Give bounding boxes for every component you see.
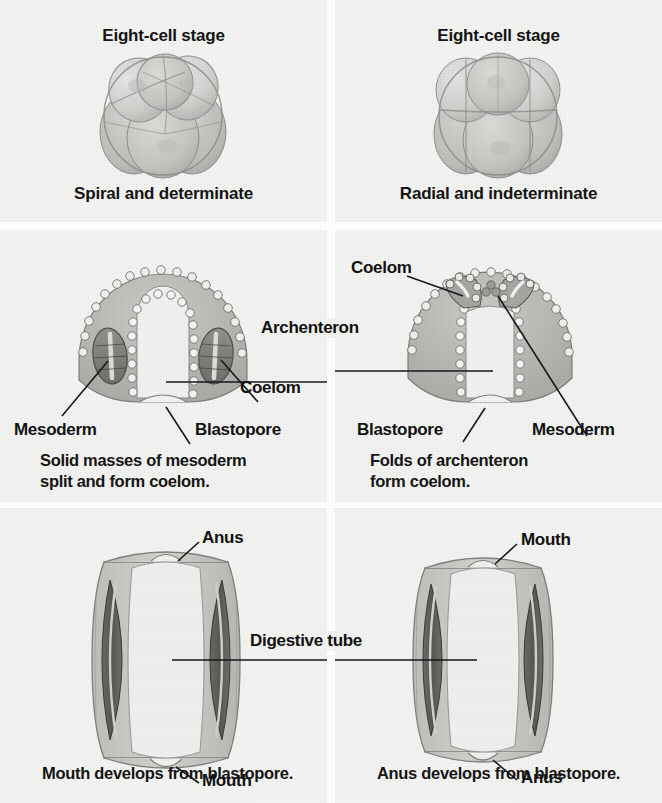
gutter-v-row1: [327, 0, 335, 222]
label-mesoderm-left: Mesoderm: [14, 420, 97, 440]
subtitle-spiral-determinate: Spiral and determinate: [0, 184, 327, 204]
label-mouth-right: Mouth: [521, 530, 570, 550]
caption-line-2: form coelom.: [370, 472, 470, 490]
protostome-worm: [0, 508, 327, 803]
panel-deuterostome-worm: Mouth Anus Anus develops from blastopore…: [335, 508, 662, 803]
caption-line-1: Solid masses of mesoderm: [40, 451, 246, 469]
panel-deuterostome-cleavage: Eight-cell stage Radial an: [335, 0, 662, 222]
label-digestive-tube-shared: Digestive tube: [245, 631, 367, 651]
panel-protostome-cleavage: Eight-cell stage: [0, 0, 327, 222]
label-blastopore-right: Blastopore: [357, 420, 443, 440]
label-coelom-right: Coelom: [351, 258, 412, 278]
label-coelom-left: Coelom: [240, 378, 301, 398]
gutter-v-row3: [327, 508, 335, 803]
panel-protostome-gastrula: Mesoderm Blastopore Coelom Solid masses …: [0, 230, 327, 502]
caption-protostome-coelom: Solid masses of mesoderm split and form …: [40, 450, 246, 492]
caption-deuterostome-coelom: Folds of archenteron form coelom.: [370, 450, 528, 492]
label-mesoderm-right: Mesoderm: [532, 420, 615, 440]
panel-deuterostome-gastrula: Coelom Blastopore Mesoderm Folds of arch…: [335, 230, 662, 502]
label-archenteron-shared: Archenteron: [256, 318, 364, 338]
caption-deuterostome-anus: Anus develops from blastopore.: [335, 763, 662, 784]
panel-protostome-worm: Anus Mouth Mouth develops from blastopor…: [0, 508, 327, 803]
label-anus-left: Anus: [202, 528, 243, 548]
gutter-h-1: [0, 222, 662, 230]
gutter-v-row2: [327, 230, 335, 502]
subtitle-radial-indeterminate: Radial and indeterminate: [335, 184, 662, 204]
caption-protostome-mouth: Mouth develops from blastopore.: [4, 763, 327, 784]
label-blastopore-left: Blastopore: [195, 420, 281, 440]
caption-line-2: split and form coelom.: [40, 472, 209, 490]
deuterostome-worm: [335, 508, 662, 803]
caption-line-1: Folds of archenteron: [370, 451, 528, 469]
